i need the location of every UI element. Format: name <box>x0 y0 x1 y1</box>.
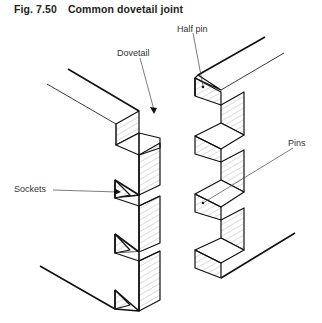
dovetail-arrow-icon <box>150 107 157 114</box>
half-pin-marker <box>202 86 205 89</box>
label-half-pin: Half pin <box>177 24 208 34</box>
label-dovetail: Dovetail <box>117 48 150 58</box>
pin-board <box>195 37 295 278</box>
sockets-leader <box>53 190 118 192</box>
label-sockets: Sockets <box>14 184 46 194</box>
dovetail-joint-diagram <box>0 0 322 323</box>
label-pins: Pins <box>288 138 306 148</box>
dovetail-leader <box>140 58 154 110</box>
